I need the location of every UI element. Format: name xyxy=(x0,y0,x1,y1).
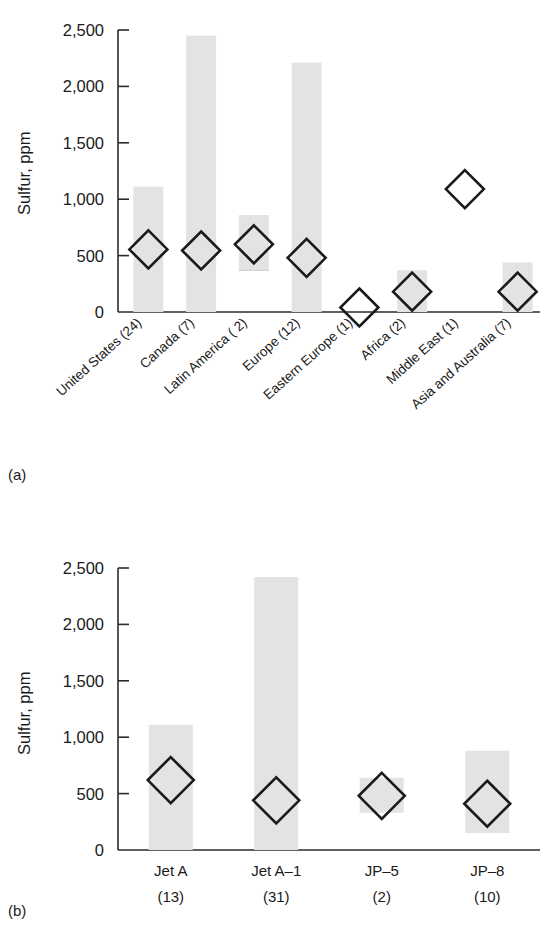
y-axis-tick-label: 2,500 xyxy=(63,21,104,39)
x-axis-category-label: United States (24) xyxy=(53,315,144,399)
chart-b-svg: Sulfur, ppm05001,0001,5002,0002,500Jet A… xyxy=(0,530,546,952)
x-axis-category-count: (31) xyxy=(263,888,290,905)
range-bar xyxy=(133,187,163,312)
x-axis-category-label: Asia and Australia (7) xyxy=(408,315,513,412)
y-axis-tick-label: 1,500 xyxy=(63,672,104,690)
x-axis-category-label: Eastern Europe (1) xyxy=(261,315,356,402)
x-axis-category-label: JP–5 xyxy=(365,862,399,879)
range-bar xyxy=(503,262,533,312)
x-axis-category-count: (13) xyxy=(157,888,184,905)
y-axis-tick-label: 2,500 xyxy=(63,559,104,577)
x-axis-category-label: JP–8 xyxy=(470,862,504,879)
y-axis-tick-label: 2,000 xyxy=(63,77,104,95)
chart-panel-a: Sulfur, ppm05001,0001,5002,0002,500Unite… xyxy=(0,0,546,520)
y-axis-title: Sulfur, ppm xyxy=(15,672,33,755)
panel-a-tag: (a) xyxy=(8,466,26,483)
y-axis-tick-label: 500 xyxy=(76,785,104,803)
x-axis-category-count: (2) xyxy=(373,888,391,905)
panel-b-tag: (b) xyxy=(8,902,26,919)
y-axis-tick-label: 0 xyxy=(95,303,104,321)
chart-panel-b: Sulfur, ppm05001,0001,5002,0002,500Jet A… xyxy=(0,530,546,952)
average-diamond-marker xyxy=(446,170,484,208)
y-axis-tick-label: 1,000 xyxy=(63,728,104,746)
range-bar xyxy=(360,778,404,813)
chart-a-svg: Sulfur, ppm05001,0001,5002,0002,500Unite… xyxy=(0,0,546,520)
x-axis-category-label-text: Eastern Europe (1) xyxy=(261,315,356,402)
y-axis-tick-label: 500 xyxy=(76,247,104,265)
range-bar xyxy=(465,751,509,833)
x-axis-category-label-text: Asia and Australia (7) xyxy=(408,315,513,412)
y-axis-title: Sulfur, ppm xyxy=(15,132,33,215)
range-bar xyxy=(397,270,427,312)
y-axis-tick-label: 1,000 xyxy=(63,190,104,208)
figure-sulfur-content: Sulfur, ppm05001,0001,5002,0002,500Unite… xyxy=(0,0,546,952)
y-axis-tick-label: 2,000 xyxy=(63,615,104,633)
x-axis-category-label: Jet A xyxy=(154,862,187,879)
range-bar xyxy=(292,63,322,312)
x-axis-category-label-text: United States (24) xyxy=(53,315,144,399)
y-axis-tick-label: 0 xyxy=(95,841,104,859)
x-axis-category-count: (10) xyxy=(474,888,501,905)
x-axis-category-label: Jet A–1 xyxy=(251,862,301,879)
y-axis-tick-label: 1,500 xyxy=(63,134,104,152)
